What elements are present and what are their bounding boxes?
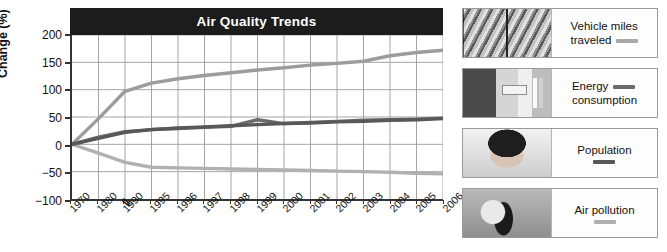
- legend-label-vehicle-miles-line1: Vehicle miles: [571, 20, 638, 32]
- legend-swatch-population: [593, 160, 615, 164]
- energy-photo: [463, 69, 552, 117]
- y-axis-label: Change (%): [0, 9, 10, 78]
- traffic-photo: [463, 9, 552, 57]
- legend: Vehicle miles traveled Energy consumptio…: [462, 0, 667, 252]
- legend-label-population: Population: [577, 144, 631, 156]
- baby-photo: [463, 129, 552, 177]
- y-axis: Change (%) 200150100500−50−100: [0, 0, 70, 252]
- y-tick-label: 50: [49, 111, 62, 125]
- legend-text-energy-consumption: Energy consumption: [552, 69, 657, 117]
- y-tick-label: 0: [55, 139, 62, 153]
- legend-text-population: Population: [552, 129, 657, 177]
- plot-inner: [72, 35, 443, 199]
- plot-area: [70, 35, 443, 201]
- chart-title-bar: Air Quality Trends: [70, 8, 443, 35]
- legend-item-vehicle-miles[interactable]: Vehicle miles traveled: [462, 8, 658, 58]
- y-tick-label: 150: [42, 56, 62, 70]
- y-tick-label: −50: [42, 166, 62, 180]
- legend-item-energy-consumption[interactable]: Energy consumption: [462, 68, 658, 118]
- y-tick-label: 100: [42, 83, 62, 97]
- y-tick-label: −100: [35, 194, 62, 208]
- legend-item-population[interactable]: Population: [462, 128, 658, 178]
- legend-swatch-air-pollution: [594, 220, 616, 224]
- legend-text-air-pollution: Air pollution: [552, 189, 657, 237]
- legend-label-vehicle-miles-line2: traveled: [571, 34, 612, 46]
- legend-label-energy-line2: consumption: [572, 94, 637, 106]
- chart-panel: Air Quality Trends Change (%) 2001501005…: [0, 0, 455, 252]
- legend-swatch-vehicle-miles: [616, 39, 638, 43]
- smoke-photo: [463, 189, 552, 237]
- chart-svg: [72, 35, 443, 199]
- legend-item-air-pollution[interactable]: Air pollution: [462, 188, 658, 238]
- y-tick-label: 200: [42, 28, 62, 42]
- chart-title: Air Quality Trends: [197, 14, 317, 29]
- air-quality-trends-figure: Air Quality Trends Change (%) 2001501005…: [0, 0, 667, 252]
- legend-label-air-pollution: Air pollution: [574, 204, 634, 216]
- legend-label-energy-line1: Energy: [572, 80, 608, 92]
- legend-text-vehicle-miles: Vehicle miles traveled: [552, 9, 657, 57]
- legend-swatch-energy-consumption: [613, 85, 635, 89]
